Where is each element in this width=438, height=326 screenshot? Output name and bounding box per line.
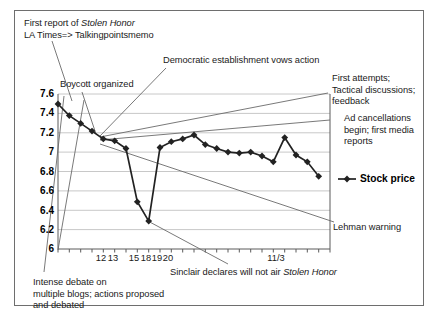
annotation-democratic: Democratic establishment vows action	[163, 55, 319, 67]
y-tick-7.4: 7.4	[24, 107, 54, 118]
leader-lines	[44, 41, 334, 272]
annotation-intense-debate-line2: multiple blogs; actions proposed	[33, 289, 164, 299]
legend-label-stock-price: Stock price	[360, 173, 415, 184]
annotation-lehman: Lehman warning	[333, 222, 401, 234]
series-markers	[55, 101, 322, 225]
annotation-sinclair-pre: Sinclair declares will not air	[170, 267, 283, 277]
y-tick-6.8: 6.8	[24, 166, 54, 177]
annotation-sinclair-em: Stolen Honor	[283, 267, 337, 277]
annotation-first-attempts: First attempts; Tactical discussions; fe…	[332, 73, 415, 108]
x-tick-13: 13	[106, 253, 120, 263]
gridlines	[58, 94, 330, 230]
y-tick-6.2: 6.2	[24, 224, 54, 235]
annotation-first-attempts-line2: Tactical discussions;	[332, 85, 415, 95]
annotation-ad-cancellations-line2: begin; first media	[344, 125, 414, 135]
x-tick-20: 20	[161, 253, 175, 263]
annotation-ad-cancellations-line3: reports	[344, 136, 373, 146]
series-stock-price	[55, 101, 322, 225]
annotation-ad-cancellations: Ad cancellations begin; first media repo…	[344, 113, 414, 148]
y-tick-6.4: 6.4	[24, 205, 54, 216]
y-tick-6: 6	[24, 243, 54, 254]
annotation-first-report-line1: First report of Stolen Honor	[24, 18, 135, 28]
y-tick-7.2: 7.2	[24, 127, 54, 138]
annotation-boycott: Boycott organized	[60, 79, 134, 91]
annotation-first-attempts-line3: feedback	[332, 96, 369, 106]
annotation-first-attempts-line1: First attempts;	[332, 73, 390, 83]
legend-marker	[338, 176, 356, 183]
annotation-intense-debate: Intense debate on multiple blogs; action…	[33, 277, 164, 312]
x-tick-marks	[58, 249, 330, 253]
y-tick-7: 7	[24, 146, 54, 157]
annotation-first-report-line2: LA Times=> Talkingpointsmemo	[24, 30, 154, 40]
leader-first-report	[52, 41, 72, 101]
annotation-intense-debate-line3: and debated	[33, 300, 84, 310]
annotation-intense-debate-line1: Intense debate on	[33, 277, 107, 287]
annotation-sinclair: Sinclair declares will not air Stolen Ho…	[170, 267, 337, 279]
x-tick-11-3: 11/3	[264, 253, 288, 263]
y-tick-6.6: 6.6	[24, 185, 54, 196]
annotation-ad-cancellations-line1: Ad cancellations	[344, 113, 411, 123]
annotation-first-report: First report of Stolen Honor LA Times=> …	[24, 18, 154, 41]
y-tick-7.6: 7.6	[24, 88, 54, 99]
